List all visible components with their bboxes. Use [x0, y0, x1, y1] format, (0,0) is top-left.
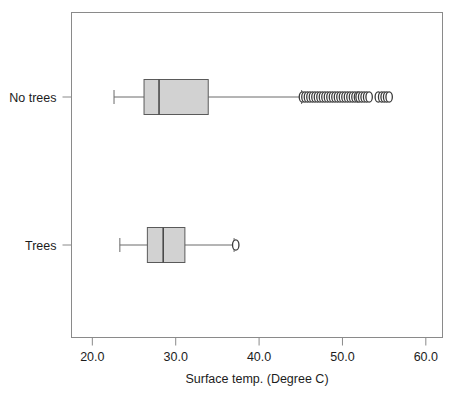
- x-axis-title: Surface temp. (Degree C): [185, 372, 328, 386]
- outlier-marker: [366, 92, 372, 102]
- outlier-marker: [386, 92, 392, 102]
- boxplot-figure: 20.030.040.050.060.0 No treesTrees Surfa…: [0, 0, 453, 397]
- x-tick-label: 20.0: [80, 350, 104, 364]
- x-tick-label: 50.0: [330, 350, 354, 364]
- y-category-label-trees: Trees: [25, 239, 57, 253]
- x-tick-label: 60.0: [414, 350, 438, 364]
- outlier-marker: [233, 240, 239, 250]
- box-rect: [144, 80, 208, 115]
- box-rect: [147, 228, 185, 263]
- boxplot-canvas: 20.030.040.050.060.0 No treesTrees Surfa…: [0, 0, 453, 397]
- y-category-label-no-trees: No trees: [9, 91, 56, 105]
- x-tick-label: 40.0: [247, 350, 271, 364]
- x-tick-label: 30.0: [164, 350, 188, 364]
